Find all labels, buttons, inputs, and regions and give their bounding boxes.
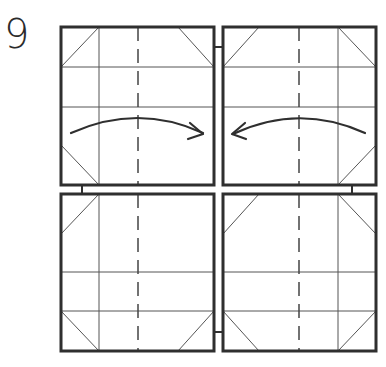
panel-top-right — [223, 27, 376, 185]
panel-bottom-right — [223, 194, 376, 351]
arrowhead-right-icon — [188, 123, 203, 139]
panel-top-left — [61, 27, 214, 185]
panel-bottom-left — [61, 194, 214, 351]
fold-arrow-right-icon — [71, 118, 203, 133]
panel-connectors — [82, 47, 352, 332]
origami-diagram: .outline { fill: none; stroke: #2f2f2f; … — [0, 0, 386, 367]
